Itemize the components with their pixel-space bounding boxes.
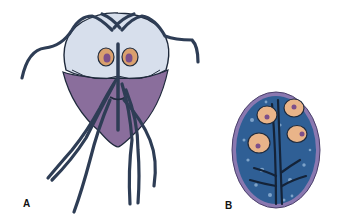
- cyst-illustration: [232, 92, 320, 208]
- figure: A B: [0, 0, 344, 223]
- panel-label-b: B: [225, 200, 232, 211]
- nucleus-right: [122, 48, 138, 66]
- panel-label-a: A: [23, 198, 30, 209]
- illustration: [0, 0, 344, 223]
- trophozoite-illustration: [22, 13, 198, 212]
- nucleus-left: [98, 48, 114, 66]
